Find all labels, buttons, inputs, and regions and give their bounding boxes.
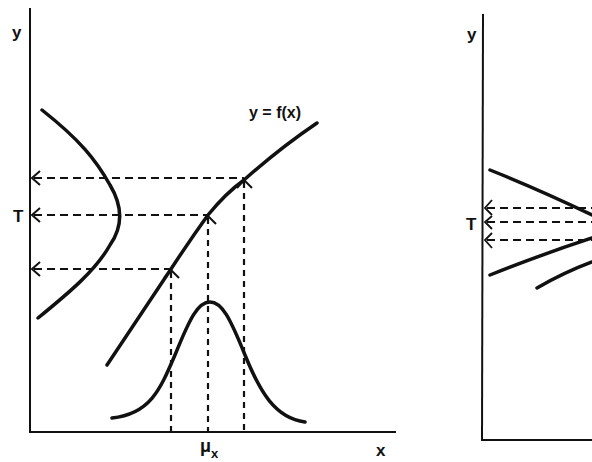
variance-transmission-diagram: y x y = f(x) T μ x y T	[0, 0, 592, 462]
right-projection-lines	[487, 208, 592, 240]
mean-subscript: x	[211, 446, 219, 461]
right-target-label: T	[466, 215, 477, 234]
right-y-axis-label: y	[467, 25, 477, 44]
mean-label: μ	[200, 436, 211, 456]
left-labels: y x y = f(x) T μ x	[12, 23, 386, 461]
transfer-function-curve	[107, 123, 317, 365]
left-panel	[29, 8, 396, 432]
left-target-label: T	[13, 207, 24, 226]
left-x-axis-label: x	[376, 441, 386, 460]
left-y-axis-label: y	[12, 23, 22, 42]
right-panel	[481, 14, 592, 440]
right-labels: y T	[466, 25, 477, 234]
right-y-axis	[482, 14, 483, 440]
output-projection-lines	[34, 178, 244, 269]
curve-label: y = f(x)	[249, 104, 301, 121]
y-axis-arrowheads	[32, 171, 40, 276]
right-transfer-function-curve	[537, 262, 592, 288]
input-projection-lines	[171, 182, 244, 432]
